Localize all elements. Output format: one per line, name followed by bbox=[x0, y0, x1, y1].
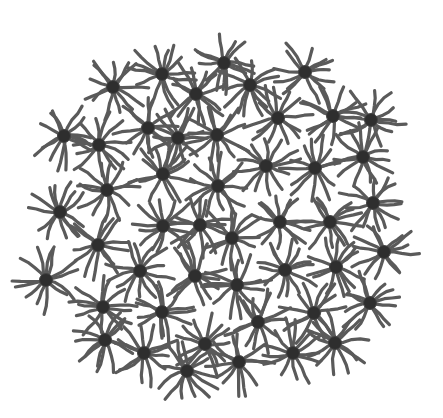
star-core bbox=[231, 279, 244, 292]
star-core bbox=[190, 88, 203, 101]
star-particle-cluster-figure bbox=[0, 0, 443, 418]
star-core bbox=[272, 112, 285, 125]
star-core bbox=[189, 270, 202, 283]
star-core bbox=[299, 66, 312, 79]
star-core bbox=[357, 151, 370, 164]
star-core bbox=[244, 79, 257, 92]
star-core bbox=[279, 264, 292, 277]
star-core bbox=[157, 168, 170, 181]
star-core bbox=[101, 184, 114, 197]
star-core bbox=[181, 365, 194, 378]
star-core bbox=[211, 129, 224, 142]
star-particle-cluster bbox=[0, 0, 443, 418]
star-core bbox=[327, 110, 340, 123]
star-core bbox=[324, 216, 337, 229]
star-core bbox=[365, 114, 378, 127]
star-core bbox=[199, 338, 212, 351]
star-core bbox=[138, 347, 151, 360]
star-core bbox=[378, 246, 391, 259]
star-core bbox=[93, 139, 106, 152]
star-core bbox=[252, 316, 265, 329]
star-core bbox=[58, 130, 71, 143]
star-core bbox=[367, 197, 380, 210]
star-core bbox=[194, 219, 207, 232]
star-core bbox=[92, 239, 105, 252]
star-core bbox=[99, 334, 112, 347]
star-core bbox=[260, 160, 273, 173]
star-core bbox=[329, 337, 342, 350]
star-core bbox=[364, 297, 377, 310]
star-core bbox=[134, 265, 147, 278]
star-core bbox=[226, 232, 239, 245]
star-core bbox=[157, 220, 170, 233]
star-core bbox=[218, 57, 231, 70]
star-core bbox=[330, 261, 343, 274]
star-core bbox=[212, 180, 225, 193]
star-core bbox=[54, 206, 67, 219]
star-core bbox=[309, 162, 322, 175]
star-core bbox=[107, 81, 120, 94]
star-core bbox=[308, 307, 321, 320]
star-core bbox=[172, 132, 185, 145]
star-core bbox=[156, 68, 169, 81]
star-core bbox=[142, 122, 155, 135]
star-core bbox=[287, 347, 300, 360]
star-core bbox=[274, 216, 287, 229]
star-core bbox=[40, 274, 53, 287]
star-core bbox=[97, 301, 110, 314]
star-core bbox=[233, 356, 246, 369]
star-core bbox=[156, 306, 169, 319]
